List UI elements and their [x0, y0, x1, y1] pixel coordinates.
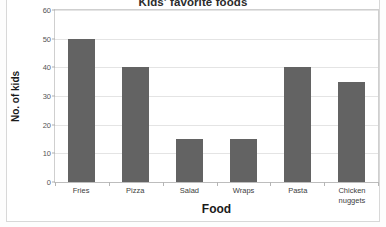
chart-title: Kids' favorite foods: [7, 0, 379, 8]
bar-slot[interactable]: [270, 10, 324, 182]
chart-screenshot: Kids' favorite foods No. of kids 0102030…: [0, 0, 386, 227]
bar[interactable]: [230, 139, 257, 182]
bars-container: [55, 10, 378, 182]
bar[interactable]: [338, 82, 365, 182]
plot-area: 0102030405060: [54, 9, 379, 183]
bar-slot[interactable]: [163, 10, 217, 182]
bar[interactable]: [68, 39, 95, 182]
y-tick-label: 20: [43, 120, 51, 129]
x-axis-title: Food: [54, 202, 379, 216]
bar[interactable]: [284, 67, 311, 182]
y-axis-title: No. of kids: [10, 62, 21, 132]
bar-slot[interactable]: [216, 10, 270, 182]
bar-slot[interactable]: [55, 10, 109, 182]
y-tick-label: 60: [43, 6, 51, 15]
bar-slot[interactable]: [109, 10, 163, 182]
y-tick-label: 50: [43, 34, 51, 43]
bar-slot[interactable]: [324, 10, 378, 182]
bar[interactable]: [176, 139, 203, 182]
y-tick-label: 30: [43, 92, 51, 101]
bar[interactable]: [122, 67, 149, 182]
y-tick-label: 0: [47, 178, 51, 187]
y-tick-label: 40: [43, 63, 51, 72]
chart-outer-frame: Kids' favorite foods No. of kids 0102030…: [6, 0, 380, 222]
y-tick-label: 10: [43, 149, 51, 158]
